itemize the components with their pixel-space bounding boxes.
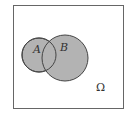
set-a-label: A [32, 43, 41, 56]
venn-diagram: A B Ω [0, 0, 130, 113]
universe-label: Ω [96, 81, 105, 94]
set-b-label: B [59, 41, 68, 54]
